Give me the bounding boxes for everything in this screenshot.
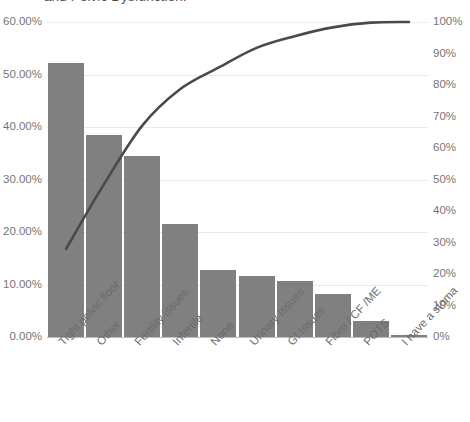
category-axis: Tight pelvic floorOtherFertility issuesI… bbox=[47, 340, 428, 422]
right-axis-tick: 30% bbox=[433, 237, 456, 249]
right-axis-tick: 0% bbox=[433, 331, 450, 343]
left-axis-tick: 30.00% bbox=[3, 174, 42, 186]
right-axis-tick: 100% bbox=[433, 16, 462, 28]
right-axis-tick: 20% bbox=[433, 268, 456, 280]
right-axis-tick: 80% bbox=[433, 79, 456, 91]
chart-title: and Pelvic Dysfunction: bbox=[44, 0, 434, 4]
right-axis-tick: 70% bbox=[433, 111, 456, 123]
left-axis-tick: 20.00% bbox=[3, 226, 42, 238]
cumulative-line bbox=[66, 22, 409, 249]
right-cumulative-axis: 0%10%20%30%40%50%60%70%80%90%100% bbox=[433, 0, 470, 422]
right-axis-tick: 40% bbox=[433, 205, 456, 217]
left-value-axis: 0.00%10.00%20.00%30.00%40.00%50.00%60.00… bbox=[0, 0, 42, 422]
left-axis-tick: 10.00% bbox=[3, 279, 42, 291]
right-axis-tick: 60% bbox=[433, 142, 456, 154]
right-axis-tick: 90% bbox=[433, 48, 456, 60]
left-axis-tick: 60.00% bbox=[3, 16, 42, 28]
pareto-chart: and Pelvic Dysfunction: 0.00%10.00%20.00… bbox=[0, 0, 470, 422]
right-axis-tick: 50% bbox=[433, 174, 456, 186]
left-axis-tick: 0.00% bbox=[9, 331, 42, 343]
left-axis-tick: 40.00% bbox=[3, 121, 42, 133]
left-axis-tick: 50.00% bbox=[3, 69, 42, 81]
